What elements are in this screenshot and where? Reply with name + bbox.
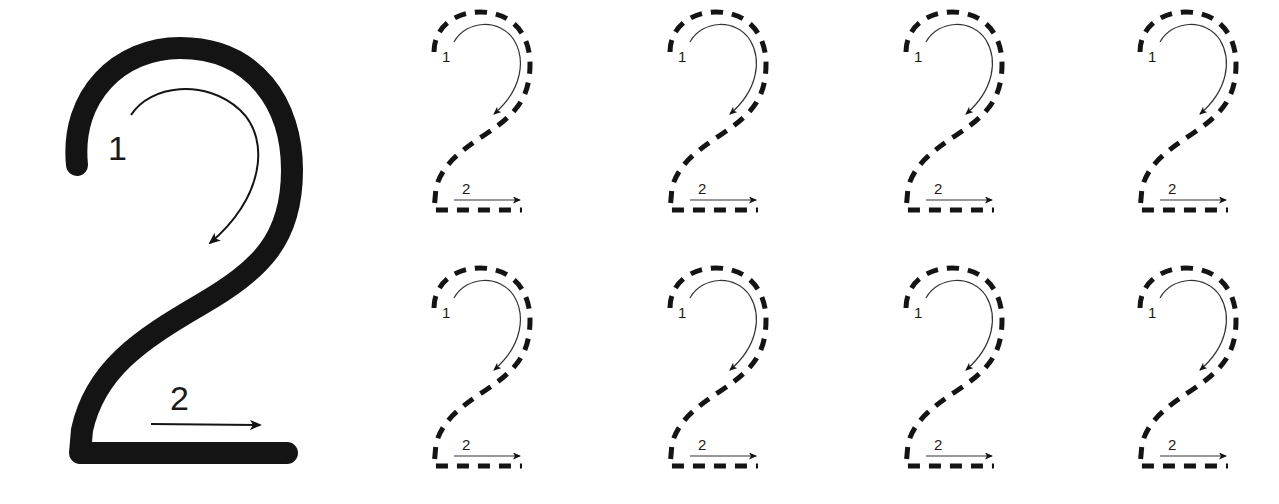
stroke-2-label: 2	[1168, 180, 1176, 197]
stroke-2-label: 2	[698, 436, 706, 453]
tracing-digit: 1 2	[434, 12, 530, 210]
stroke-2-label: 2	[698, 180, 706, 197]
stroke-2-label: 2	[170, 379, 189, 417]
tracing-digit: 1 2	[434, 268, 530, 466]
stroke-1-arrow	[131, 89, 258, 243]
stroke-1-label: 1	[914, 304, 922, 321]
handwriting-worksheet: 1 2 1 2 1 2 1 2 1 2	[0, 0, 1279, 504]
stroke-1-label: 1	[1148, 48, 1156, 65]
stroke-2-label: 2	[934, 436, 942, 453]
stroke-1-label: 1	[1148, 304, 1156, 321]
stroke-1-label: 1	[678, 48, 686, 65]
stroke-1-label: 1	[442, 304, 450, 321]
worksheet-canvas: 1 2 1 2 1 2 1 2 1 2	[0, 0, 1279, 504]
tracing-digit: 1 2	[1140, 268, 1236, 466]
stroke-2-label: 2	[462, 436, 470, 453]
stroke-1-label: 1	[914, 48, 922, 65]
stroke-1-label: 1	[108, 129, 127, 167]
stroke-2-arrow	[151, 424, 260, 425]
stroke-2-label: 2	[1168, 436, 1176, 453]
tracing-digit: 1 2	[906, 12, 1002, 210]
stroke-1-label: 1	[678, 304, 686, 321]
stroke-2-label: 2	[934, 180, 942, 197]
stroke-2-label: 2	[462, 180, 470, 197]
tracing-digit: 1 2	[906, 268, 1002, 466]
stroke-1-label: 1	[442, 48, 450, 65]
model-digit: 1 2	[76, 48, 292, 453]
tracing-digit: 1 2	[670, 12, 766, 210]
tracing-row-1: 1 2 1 2 1 2 1 2	[434, 12, 1236, 210]
tracing-row-2: 1 2 1 2 1 2 1 2	[434, 268, 1236, 466]
tracing-digit: 1 2	[670, 268, 766, 466]
tracing-digit: 1 2	[1140, 12, 1236, 210]
